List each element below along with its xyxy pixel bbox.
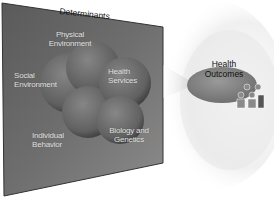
determinants-diagram: Determinants Physical Environment Social…	[0, 0, 274, 201]
label-social-environment: Social Environment	[14, 71, 64, 89]
diagram-graphic	[0, 0, 274, 201]
label-biology-genetics: Biology and Genetics	[104, 126, 154, 144]
label-health-outcomes: Health Outcomes	[194, 59, 254, 79]
label-physical-environment: Physical Environment	[46, 30, 94, 48]
label-individual-behavior: Individual Behavior	[32, 131, 76, 149]
label-health-services: Health Services	[108, 67, 148, 85]
